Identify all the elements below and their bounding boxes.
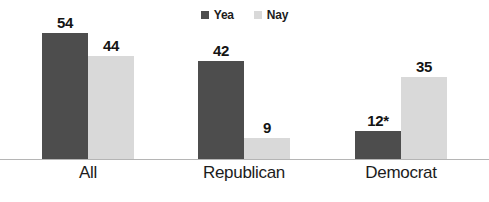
bar-republican-nay[interactable]: [244, 138, 290, 159]
bar-value-republican-yea: 42: [198, 43, 244, 58]
category-label-democrat: Democrat: [355, 163, 447, 183]
bar-wrap-democrat-nay: 35: [401, 28, 447, 159]
bar-wrap-all-yea: 54: [42, 28, 88, 159]
bar-republican-yea[interactable]: [198, 61, 244, 159]
legend-item-yea[interactable]: Yea: [201, 9, 234, 21]
grouped-bar-chart: Yea Nay 54 44 42: [0, 0, 489, 202]
bar-value-all-nay: 44: [88, 38, 134, 53]
bar-wrap-republican-yea: 42: [198, 28, 244, 159]
bar-group-republican-bars: 42 9: [198, 28, 290, 159]
legend-swatch-nay: [254, 11, 262, 19]
legend-item-nay[interactable]: Nay: [254, 9, 288, 21]
category-label-all: All: [42, 163, 134, 183]
plot-area: 54 44 42 9: [0, 28, 489, 160]
bar-wrap-all-nay: 44: [88, 28, 134, 159]
legend-swatch-yea: [201, 11, 209, 19]
bar-group-democrat-bars: 12* 35: [355, 28, 447, 159]
axis-baseline: [0, 159, 489, 160]
category-label-republican: Republican: [198, 163, 290, 183]
legend-label-nay: Nay: [267, 9, 288, 21]
bar-value-all-yea: 54: [42, 15, 88, 30]
bar-group-all-bars: 54 44: [42, 28, 134, 159]
bar-value-republican-nay: 9: [244, 120, 290, 135]
bar-wrap-democrat-yea: 12*: [355, 28, 401, 159]
bar-value-democrat-yea: 12*: [355, 113, 401, 128]
legend-label-yea: Yea: [214, 9, 234, 21]
bar-democrat-yea[interactable]: [355, 131, 401, 159]
bar-value-democrat-nay: 35: [401, 59, 447, 74]
bar-all-yea[interactable]: [42, 33, 88, 159]
cropped-title: [0, 0, 489, 3]
bar-all-nay[interactable]: [88, 56, 134, 159]
bar-wrap-republican-nay: 9: [244, 28, 290, 159]
bar-democrat-nay[interactable]: [401, 77, 447, 159]
category-axis-labels: All Republican Democrat: [0, 163, 489, 189]
